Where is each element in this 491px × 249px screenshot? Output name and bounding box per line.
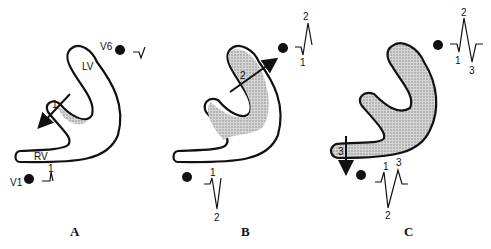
wave-label-c-v1-1: 1 xyxy=(383,161,389,172)
heart-outline-a xyxy=(16,46,121,162)
wave-label-c-v1-2: 2 xyxy=(385,210,391,221)
wave-label-b-v1-2: 2 xyxy=(214,212,220,223)
wave-label-c-v6-3: 3 xyxy=(469,65,475,76)
ventricular-activation-diagram: 1 LV RV V6 V1 1 A 2 2 1 1 2 B 3 2 1 3 xyxy=(0,0,491,249)
electrode-v1-b xyxy=(182,172,192,182)
panel-label-a: A xyxy=(70,224,80,239)
wave-label-c-v6-2: 2 xyxy=(461,7,467,18)
electrode-v6-b xyxy=(278,43,288,53)
electrode-v6-a xyxy=(115,45,125,55)
ecg-v1-b xyxy=(204,178,221,209)
wave-label-a-v1-1: 1 xyxy=(48,163,54,174)
wave-label-c-v1-3: 3 xyxy=(396,157,402,168)
electrode-v1-c xyxy=(356,170,366,180)
rv-label: RV xyxy=(34,151,48,162)
panel-c: 3 2 1 3 1 3 2 C xyxy=(331,7,483,239)
lv-label: LV xyxy=(82,61,94,72)
electrode-v6-c xyxy=(433,40,443,50)
ecg-v6-a xyxy=(133,47,145,58)
panel-label-b: B xyxy=(241,224,250,239)
vector-label-b: 2 xyxy=(240,70,246,81)
wave-label-b-v1-1: 1 xyxy=(210,167,216,178)
electrode-v1-a xyxy=(24,174,34,184)
wave-label-b-v6-1: 1 xyxy=(300,57,306,68)
lead-v6-label: V6 xyxy=(100,41,113,52)
wave-label-b-v6-2: 2 xyxy=(303,11,309,22)
panel-b: 2 2 1 1 2 B xyxy=(174,11,313,239)
vector-label-c: 3 xyxy=(338,146,344,157)
panel-a: 1 LV RV V6 V1 1 A xyxy=(10,41,145,239)
lead-v1-label: V1 xyxy=(10,177,23,188)
ecg-v1-c xyxy=(375,170,408,208)
wave-label-c-v6-1: 1 xyxy=(455,55,461,66)
vector-label-a: 1 xyxy=(52,99,58,110)
ecg-v6-b xyxy=(295,23,312,55)
panel-label-c: C xyxy=(404,224,413,239)
